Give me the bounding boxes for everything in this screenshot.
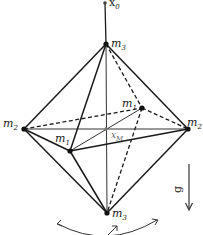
center-of-mass-point <box>104 127 108 131</box>
label-left-m2: m2 <box>3 118 18 132</box>
vertex-bottom-m3 <box>104 210 109 215</box>
label-pivot-x0: x0 <box>109 0 120 11</box>
octahedron-diagram <box>0 0 203 235</box>
label-gravity-g: g <box>172 186 183 193</box>
label-right-m2: m2 <box>187 117 202 131</box>
vertex-left-m2 <box>21 126 26 131</box>
label-back-m1: m1 <box>122 98 137 112</box>
gravity-arrow-icon <box>186 164 193 210</box>
suspension-rod <box>105 3 106 44</box>
label-bottom-m3: m3 <box>112 208 127 222</box>
vertex-top-m3 <box>103 41 108 46</box>
pivot-point <box>103 1 107 5</box>
label-center-xM: xM <box>111 131 123 143</box>
rotation-arrows-icon <box>57 219 158 235</box>
label-front-m1: m1 <box>55 133 70 147</box>
label-top-m3: m3 <box>111 38 126 52</box>
vertex-front-m1 <box>67 148 72 153</box>
vertex-back-m1 <box>139 105 144 110</box>
